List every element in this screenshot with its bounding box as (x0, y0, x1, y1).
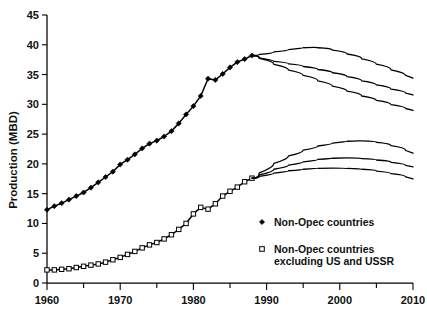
data-point-marker (206, 207, 210, 211)
x-tick-label: 2010 (401, 294, 425, 306)
x-tick-label: 1970 (108, 294, 132, 306)
y-tick-label: 5 (33, 247, 39, 259)
projection-curve (252, 56, 413, 95)
legend-label-non-opec-excluding: Non-Opec countries (274, 243, 375, 255)
data-point-marker (205, 76, 210, 81)
legend-label-non-opec-excluding-line2: excluding US and USSR (274, 255, 395, 267)
data-point-marker (199, 205, 203, 209)
data-point-marker (59, 267, 63, 271)
data-point-marker (220, 194, 224, 198)
data-point-marker (59, 201, 64, 206)
series-line (47, 178, 252, 270)
production-chart: 051015202530354045 196019701980199020002… (0, 0, 427, 313)
y-tick-label: 40 (27, 39, 39, 51)
data-point-marker (228, 189, 232, 193)
x-tick-label: 1980 (181, 294, 205, 306)
data-point-marker (44, 207, 49, 212)
data-point-marker (162, 237, 166, 241)
data-point-marker (52, 204, 57, 209)
data-series-group (44, 53, 254, 272)
data-point-marker (45, 268, 49, 272)
chart-legend: Non-Opec countriesNon-Opec countriesexcl… (259, 216, 394, 267)
data-point-marker (169, 233, 173, 237)
data-point-marker (133, 249, 137, 253)
data-point-marker (89, 263, 93, 267)
data-point-marker (155, 240, 159, 244)
data-point-marker (235, 185, 239, 189)
y-axis-title: Production (MBD) (7, 111, 19, 209)
data-point-marker (125, 252, 129, 256)
data-point-marker (103, 260, 107, 264)
data-point-marker (177, 227, 181, 231)
y-tick-label: 20 (27, 158, 39, 170)
projection-curves-group (252, 47, 413, 178)
data-point-marker (147, 243, 151, 247)
x-axis: 196019701980199020002010 (35, 283, 425, 306)
y-tick-label: 0 (33, 277, 39, 289)
y-tick-label: 45 (27, 9, 39, 21)
data-point-marker (74, 193, 79, 198)
data-point-marker (191, 212, 195, 216)
x-tick-label: 1960 (35, 294, 59, 306)
x-tick-label: 2000 (328, 294, 352, 306)
projection-curve (252, 168, 413, 179)
y-tick-label: 25 (27, 128, 39, 140)
y-tick-label: 35 (27, 69, 39, 81)
x-tick-label: 1990 (254, 294, 278, 306)
data-point-marker (140, 246, 144, 250)
data-point-marker (184, 221, 188, 225)
data-point-marker (242, 56, 247, 61)
data-point-marker (52, 268, 56, 272)
y-axis: 051015202530354045 (27, 9, 47, 289)
data-point-marker (118, 255, 122, 259)
legend-label-non-opec: Non-Opec countries (274, 216, 375, 228)
projection-curve (252, 47, 413, 78)
projection-curve (252, 56, 413, 111)
data-point-marker (242, 180, 246, 184)
legend-marker-open-square (260, 247, 265, 252)
legend-marker-filled-diamond (259, 219, 264, 224)
data-point-marker (96, 262, 100, 266)
y-tick-label: 15 (27, 188, 39, 200)
y-tick-label: 30 (27, 98, 39, 110)
data-point-marker (74, 265, 78, 269)
data-point-marker (111, 258, 115, 262)
data-point-marker (213, 202, 217, 206)
chart-canvas: 051015202530354045 196019701980199020002… (0, 0, 427, 313)
y-tick-label: 10 (27, 217, 39, 229)
data-point-marker (66, 197, 71, 202)
data-point-marker (81, 264, 85, 268)
series-line (47, 56, 252, 210)
data-point-marker (67, 267, 71, 271)
